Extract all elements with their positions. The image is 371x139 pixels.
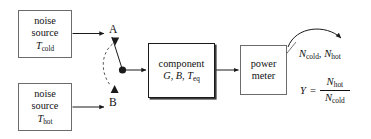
- reading-curved-arrow: [288, 29, 341, 47]
- power-meter-line-1: power: [251, 58, 277, 70]
- y-factor-numerator: Nhot: [325, 76, 346, 90]
- component-box[interactable]: component G, B, Teq: [148, 43, 215, 98]
- switch-contact-lower-icon: [111, 85, 119, 93]
- noise-source-cold-line-1: noise: [34, 15, 56, 27]
- n-cold-subscript: cold: [306, 52, 319, 61]
- noise-source-hot-box[interactable]: noise source Thot: [18, 83, 72, 131]
- component-label: component: [159, 58, 205, 70]
- switch-port-a-label: A: [109, 23, 117, 35]
- noise-source-cold-line-2: source: [32, 27, 59, 39]
- noise-source-hot-temperature: Thot: [38, 113, 53, 126]
- component-param-gain: G: [163, 70, 170, 81]
- noise-source-hot-line-2: source: [32, 100, 59, 112]
- y-factor-numerator-symbol: N: [327, 76, 334, 87]
- noise-source-hot-line-1: noise: [34, 88, 56, 100]
- component-parameters: G, B, Teq: [163, 70, 200, 83]
- switch-port-b-label: B: [109, 96, 117, 108]
- measured-values-separator: ,: [319, 48, 322, 59]
- y-factor-equation: Y = Nhot Ncold: [300, 76, 350, 105]
- component-param-temp-subscript: eq: [193, 75, 200, 83]
- noise-source-cold-box[interactable]: noise source Tcold: [18, 10, 72, 58]
- y-factor-equals-sign: =: [310, 85, 316, 96]
- y-factor-denominator: Ncold: [323, 91, 347, 105]
- noise-source-hot-temp-subscript: hot: [43, 117, 52, 125]
- y-factor-lhs: Y: [300, 85, 306, 96]
- y-factor-denominator-symbol: N: [325, 92, 332, 103]
- n-hot-subscript: hot: [331, 52, 340, 61]
- y-factor-denominator-subscript: cold: [332, 96, 345, 105]
- y-factor-fraction: Nhot Ncold: [320, 76, 350, 105]
- diagram-canvas: noise source Tcold noise source Thot com…: [0, 0, 371, 139]
- y-factor-numerator-subscript: hot: [334, 80, 343, 89]
- noise-source-cold-temperature: Tcold: [36, 40, 54, 53]
- power-meter-box[interactable]: power meter: [240, 45, 287, 95]
- measured-noise-powers: Ncold, Nhot: [299, 48, 341, 61]
- power-meter-line-2: meter: [252, 70, 275, 82]
- switch-travel-arc: [103, 44, 112, 86]
- noise-source-cold-temp-subscript: cold: [42, 44, 54, 52]
